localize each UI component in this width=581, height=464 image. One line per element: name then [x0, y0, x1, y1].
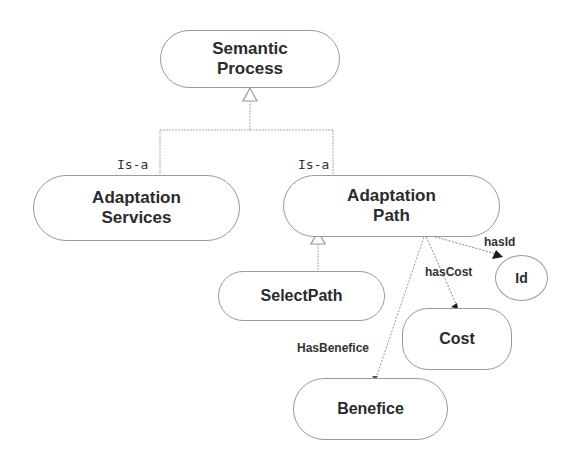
edge-label-has-benefice: HasBenefice: [297, 341, 369, 355]
edge-label-has-cost: hasCost: [425, 265, 472, 279]
node-adaptation-path: Adaptation Path: [283, 175, 500, 237]
arrowhead-icon: [492, 250, 503, 259]
node-label: Benefice: [337, 400, 404, 418]
node-label: Adaptation Services: [92, 188, 181, 227]
inheritance-arrow-icon: [243, 88, 257, 101]
node-label: Id: [515, 270, 527, 286]
node-label: Semantic Process: [212, 39, 288, 78]
node-adaptation-services: Adaptation Services: [33, 175, 240, 241]
edge-label-is-a-right: Is-a: [298, 157, 329, 172]
node-label: Adaptation Path: [347, 186, 436, 225]
node-id: Id: [495, 255, 548, 301]
edge-label-is-a-left: Is-a: [117, 157, 148, 172]
node-select-path: SelectPath: [218, 271, 385, 321]
node-label: Cost: [439, 330, 475, 348]
node-label: SelectPath: [261, 287, 343, 305]
node-semantic-process: Semantic Process: [160, 30, 340, 88]
node-cost: Cost: [402, 308, 512, 370]
node-benefice: Benefice: [293, 378, 448, 440]
edge-label-has-id: hasId: [484, 235, 515, 249]
